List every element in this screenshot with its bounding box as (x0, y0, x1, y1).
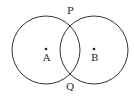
label-a: A (42, 52, 51, 63)
two-circles-diagram: A B P Q (0, 0, 134, 96)
label-p: P (67, 5, 74, 16)
label-q: Q (66, 81, 74, 92)
center-a-dot (45, 48, 48, 51)
label-b: B (91, 52, 98, 63)
center-b-dot (93, 48, 96, 51)
